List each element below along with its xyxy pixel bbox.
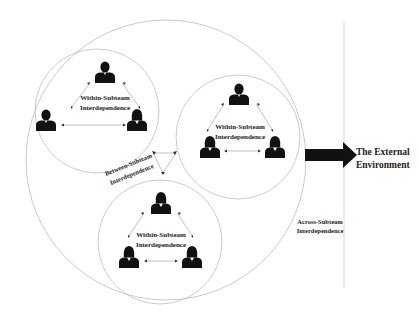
person-male-icon xyxy=(229,83,249,105)
within-label-line2: Interdependence xyxy=(136,241,186,249)
subteam-bottom: Within-Subteam Interdependence xyxy=(119,192,202,268)
subteam-top-left: Within-Subteam Interdependence xyxy=(36,61,147,131)
across-label-line2: Interdependence xyxy=(297,227,344,234)
person-female-icon xyxy=(119,246,139,268)
within-label-line2: Interdependence xyxy=(80,104,130,112)
team-interdependence-diagram: Within-Subteam Interdependence Within-Su… xyxy=(0,0,419,314)
person-female-icon xyxy=(182,246,202,268)
within-label-line1: Within-Subteam xyxy=(136,231,186,239)
external-label-line1: The External xyxy=(356,147,410,157)
external-label-line2: Environment xyxy=(356,160,411,170)
person-male-icon xyxy=(36,109,56,131)
external-arrow-icon xyxy=(305,142,357,168)
across-subteam-boundary xyxy=(26,20,306,300)
between-link xyxy=(163,153,176,173)
between-link xyxy=(153,153,163,173)
person-male-icon xyxy=(95,61,115,83)
within-label-line1: Within-Subteam xyxy=(80,94,130,102)
person-female-icon xyxy=(151,192,171,214)
person-female-icon xyxy=(127,109,147,131)
between-subteam-links xyxy=(152,151,177,175)
within-label-line2: Interdependence xyxy=(215,133,265,141)
person-female-icon xyxy=(265,136,285,158)
subteam-right: Within-Subteam Interdependence xyxy=(200,83,285,158)
within-label-line1: Within-Subteam xyxy=(215,123,265,131)
across-label-line1: Across-Subteam xyxy=(297,218,343,225)
